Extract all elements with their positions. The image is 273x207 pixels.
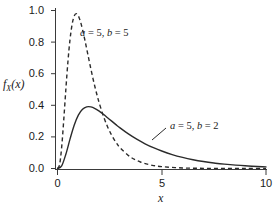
curve-alpha5-b2 — [58, 107, 267, 169]
annotation-1-value-b: 5 — [123, 27, 128, 38]
annotation-2-value-a: 5 — [186, 120, 191, 131]
annotation-2-var-b: b — [197, 120, 202, 131]
chart-figure: 1.0 0.8 0.6 0.4 0.2 0.0 0 5 10 fX(x) x a… — [0, 0, 273, 207]
y-tick-label-0.0: 0.0 — [14, 163, 44, 174]
annotation-1-var-b: b — [107, 27, 112, 38]
annotation-1-var-a: a — [80, 27, 85, 38]
x-tick-label-5: 5 — [150, 178, 174, 189]
annotation-alpha5-b2: a = 5, b = 2 — [170, 121, 219, 132]
x-axis-ticks — [58, 170, 267, 176]
y-tick-label-0.8: 0.8 — [14, 37, 44, 48]
x-tick-label-0: 0 — [46, 178, 70, 189]
annotation-leader-line — [152, 128, 166, 140]
y-tick-label-0.2: 0.2 — [14, 131, 44, 142]
annotation-2-value-b: 2 — [213, 120, 218, 131]
x-tick-label-10: 10 — [254, 178, 273, 189]
y-tick-label-0.4: 0.4 — [14, 100, 44, 111]
annotation-2-var-a: a — [170, 120, 175, 131]
y-axis-ticks — [51, 11, 56, 169]
annotation-1-value-a: 5 — [96, 27, 101, 38]
y-axis-title-arg: (x) — [11, 77, 24, 91]
y-axis-title: fX(x) — [3, 78, 25, 93]
y-tick-label-1.0: 1.0 — [14, 5, 44, 16]
x-axis-title: x — [158, 192, 163, 204]
annotation-alpha5-b5: a = 5, b = 5 — [80, 28, 129, 39]
